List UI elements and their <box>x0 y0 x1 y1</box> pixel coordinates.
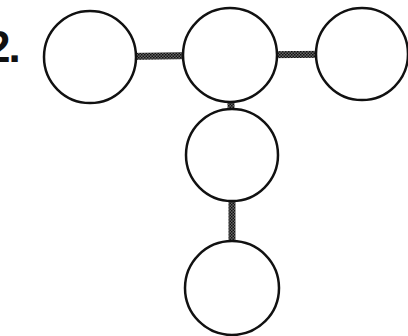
circle-bottom <box>185 241 279 335</box>
circle-diagram <box>0 0 408 336</box>
circle-top-center <box>183 8 277 102</box>
circle-middle <box>186 109 278 201</box>
circle-top-right <box>316 8 408 100</box>
circle-top-left <box>44 11 136 103</box>
